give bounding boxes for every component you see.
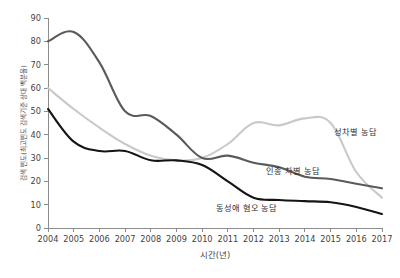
- x-axis-title: 시간(년): [200, 250, 231, 260]
- data-series-line: [48, 31, 382, 188]
- y-tick-label: 10: [31, 200, 41, 210]
- x-tick-label: 2011: [217, 234, 238, 244]
- y-tick-label: 30: [31, 153, 41, 163]
- x-tick-label: 2007: [115, 234, 136, 244]
- y-tick-label: 70: [31, 60, 41, 70]
- chart-canvas: 성차별 농담인종 차별 농담동성애 혐오 농담 0102030405060708…: [0, 0, 400, 278]
- series-label-layer: 성차별 농담인종 차별 농담동성애 혐오 농담: [216, 127, 377, 213]
- x-tick-label: 2006: [89, 234, 110, 244]
- x-tick-label: 2015: [320, 234, 341, 244]
- x-tick-label: 2017: [372, 234, 393, 244]
- x-tick-label: 2010: [192, 234, 213, 244]
- x-tick-label: 2005: [63, 234, 84, 244]
- y-tick-label: 40: [31, 130, 41, 140]
- series-label: 동성애 혐오 농담: [216, 203, 277, 213]
- y-tick-label: 20: [31, 176, 41, 186]
- x-tick-label: 2012: [243, 234, 264, 244]
- search-frequency-line-chart: 성차별 농담인종 차별 농담동성애 혐오 농담 0102030405060708…: [0, 0, 400, 278]
- y-tick-label: 90: [31, 13, 41, 23]
- x-tick-label: 2014: [295, 234, 316, 244]
- x-tick-label: 2008: [140, 234, 161, 244]
- y-axis-title: 검색 빈도(최고빈도 검색기준 상대 백분율): [19, 65, 28, 181]
- series-label: 인종 차별 농담: [266, 166, 319, 176]
- x-tick-label: 2009: [166, 234, 187, 244]
- y-tick-label: 80: [31, 36, 41, 46]
- y-tick-label: 50: [31, 106, 41, 116]
- x-tick-label: 2016: [346, 234, 367, 244]
- series-label: 성차별 농담: [334, 127, 377, 137]
- y-tick-label: 60: [31, 83, 41, 93]
- data-series-line: [48, 88, 382, 198]
- x-tick-label: 2004: [38, 234, 59, 244]
- y-tick-label: 0: [36, 223, 41, 233]
- x-tick-label: 2013: [269, 234, 290, 244]
- series-layer: [48, 31, 382, 214]
